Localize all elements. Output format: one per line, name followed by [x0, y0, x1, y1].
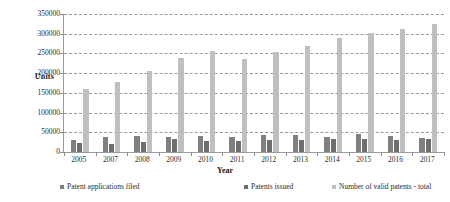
- x-axis-title: Year: [0, 166, 450, 175]
- bar-group: [64, 14, 96, 152]
- bar[interactable]: [432, 24, 437, 152]
- y-axis-tick-label: 150000: [20, 89, 60, 97]
- legend-item[interactable]: Number of valid patents - total: [332, 182, 431, 192]
- y-axis-tick-label: 0: [20, 148, 60, 156]
- bar[interactable]: [356, 134, 361, 152]
- x-axis-tick-label: 2008: [126, 155, 158, 164]
- bar-group: [222, 14, 254, 152]
- bar[interactable]: [394, 140, 399, 152]
- bar[interactable]: [103, 137, 108, 152]
- bar[interactable]: [172, 139, 177, 152]
- bar[interactable]: [368, 33, 373, 152]
- bar[interactable]: [267, 140, 272, 152]
- bar[interactable]: [141, 142, 146, 152]
- legend-label: Patent applications filed: [67, 182, 139, 192]
- patents-bar-chart: Units 0500001000001500002000002500003000…: [0, 0, 450, 202]
- legend-swatch-icon: [244, 185, 248, 189]
- bar[interactable]: [362, 139, 367, 152]
- bar[interactable]: [293, 135, 298, 152]
- bar[interactable]: [426, 139, 431, 152]
- bar[interactable]: [388, 136, 393, 152]
- legend-item[interactable]: Patent applications filed: [60, 182, 139, 192]
- legend-swatch-icon: [60, 185, 64, 189]
- bar[interactable]: [178, 58, 183, 152]
- bar[interactable]: [229, 137, 234, 152]
- x-axis-tick-label: 2012: [253, 155, 285, 164]
- y-axis-tick-label: 300000: [20, 30, 60, 38]
- bar[interactable]: [299, 140, 304, 152]
- x-axis-tick-label: 2007: [95, 155, 127, 164]
- bar[interactable]: [134, 136, 139, 152]
- x-axis-tick-label: 2017: [411, 155, 443, 164]
- x-axis-tick-label: 2013: [285, 155, 317, 164]
- bar[interactable]: [147, 71, 152, 152]
- bar[interactable]: [236, 141, 241, 152]
- bar[interactable]: [115, 82, 120, 152]
- bar-group: [96, 14, 128, 152]
- bar-group: [317, 14, 349, 152]
- x-axis-tick: [444, 152, 445, 156]
- bar-group: [349, 14, 381, 152]
- bar-group: [254, 14, 286, 152]
- y-axis-tick-label: 250000: [20, 49, 60, 57]
- legend-swatch-icon: [332, 185, 336, 189]
- bar[interactable]: [242, 59, 247, 152]
- bar-group: [412, 14, 444, 152]
- bar[interactable]: [77, 143, 82, 152]
- x-axis-tick-label: 2011: [221, 155, 253, 164]
- bar[interactable]: [400, 29, 405, 152]
- x-axis-tick-label: 2014: [316, 155, 348, 164]
- bar[interactable]: [204, 141, 209, 152]
- plot-area: [63, 14, 444, 153]
- x-axis-tick-label: 2005: [63, 155, 95, 164]
- x-axis-tick-label: 2016: [380, 155, 412, 164]
- bar[interactable]: [305, 46, 310, 152]
- y-axis-tick-label: 350000: [20, 10, 60, 18]
- bar-group: [127, 14, 159, 152]
- bar[interactable]: [71, 140, 76, 152]
- bar[interactable]: [198, 136, 203, 152]
- legend-label: Patents issued: [251, 182, 293, 192]
- bar-group: [191, 14, 223, 152]
- bar[interactable]: [419, 138, 424, 152]
- bar[interactable]: [83, 89, 88, 152]
- bar-group: [286, 14, 318, 152]
- bar[interactable]: [331, 139, 336, 152]
- bar[interactable]: [109, 144, 114, 152]
- y-axis-tick-label: 100000: [20, 109, 60, 117]
- bar[interactable]: [324, 137, 329, 152]
- bar-group: [381, 14, 413, 152]
- bar[interactable]: [273, 52, 278, 152]
- bar[interactable]: [210, 51, 215, 152]
- bar[interactable]: [337, 38, 342, 152]
- x-axis-tick-label: 2015: [348, 155, 380, 164]
- x-axis-tick-label: 2009: [158, 155, 190, 164]
- y-axis-tick-label: 50000: [20, 128, 60, 136]
- legend-item[interactable]: Patents issued: [244, 182, 293, 192]
- bar[interactable]: [166, 137, 171, 152]
- bar[interactable]: [261, 135, 266, 152]
- chart-legend: Patent applications filedPatents issuedN…: [0, 182, 450, 196]
- bar-group: [159, 14, 191, 152]
- y-axis-tick-label: 200000: [20, 69, 60, 77]
- x-axis-tick-label: 2010: [190, 155, 222, 164]
- legend-label: Number of valid patents - total: [339, 182, 431, 192]
